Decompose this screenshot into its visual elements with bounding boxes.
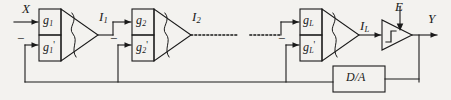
- label-stageL-gain-bottom: gL': [303, 40, 315, 55]
- label-stage1-minus: −: [17, 31, 24, 47]
- block-diagram: X I1 I2 IL E Y g1 g1' − g2 g2' − gL gL' …: [0, 0, 451, 100]
- label-stage2-minus: −: [110, 31, 117, 47]
- label-input-x: X: [22, 2, 30, 15]
- schematic-drawing: [0, 0, 451, 100]
- label-stage1-current: I1: [99, 10, 108, 25]
- stageL-amplifier-triangle: [322, 9, 359, 61]
- label-output-y: Y: [428, 12, 435, 25]
- label-stage2-gain-bottom: g2': [136, 40, 148, 55]
- stage2-amplifier-triangle: [154, 9, 191, 61]
- label-stageL-minus: −: [278, 31, 285, 47]
- label-stageL-current: IL: [360, 19, 369, 34]
- label-stage2-gain-top: g2: [136, 14, 146, 28]
- label-stage2-current: I2: [192, 10, 201, 25]
- stage1-minus-wire: [25, 42, 38, 47]
- stage1-amplifier-triangle: [61, 9, 98, 61]
- input-x-wire: [14, 19, 38, 24]
- label-stage1-gain-top: g1: [43, 14, 53, 28]
- output-y-wire: [412, 32, 437, 37]
- label-stage1-gain-bottom: g1': [43, 40, 55, 55]
- label-da-converter: D/A: [346, 71, 365, 83]
- comparator-block: [382, 20, 412, 50]
- feedback-bus: [25, 45, 333, 82]
- label-error-e: E: [395, 0, 403, 13]
- stage2-minus-wire: [118, 42, 131, 47]
- stageL-minus-wire: [286, 42, 299, 47]
- label-stageL-gain-top: gL: [303, 14, 314, 28]
